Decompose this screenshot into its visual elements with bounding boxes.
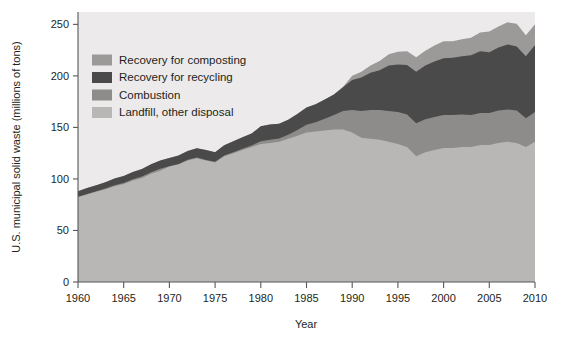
x-tick-label: 1995	[386, 292, 410, 304]
y-tick-label: 250	[51, 18, 69, 30]
x-axis-title: Year	[295, 318, 318, 330]
legend-label-combustion: Combustion	[119, 89, 180, 101]
y-tick-label: 100	[51, 173, 69, 185]
x-tick-label: 1985	[294, 292, 318, 304]
y-axis-title: U.S. municipal solid waste (millions of …	[10, 41, 22, 253]
legend-label-recovery-for-composting: Recovery for composting	[119, 54, 246, 66]
legend-swatch-landfill-other-disposal	[92, 107, 112, 118]
legend-label-landfill-other-disposal: Landfill, other disposal	[119, 106, 233, 118]
y-tick-label: 0	[63, 276, 69, 288]
stacked-area-chart: 0501001502002501960196519701975198019851…	[0, 0, 562, 344]
legend-label-recovery-for-recycling: Recovery for recycling	[119, 71, 233, 83]
x-tick-label: 1990	[340, 292, 364, 304]
legend-swatch-recovery-for-recycling	[92, 72, 112, 83]
chart-figure: 0501001502002501960196519701975198019851…	[0, 0, 562, 344]
x-tick-label: 1965	[111, 292, 135, 304]
y-tick-label: 50	[57, 224, 69, 236]
x-tick-label: 2005	[477, 292, 501, 304]
y-tick-label: 150	[51, 121, 69, 133]
x-tick-label: 1975	[203, 292, 227, 304]
y-tick-label: 200	[51, 70, 69, 82]
x-tick-label: 1980	[249, 292, 273, 304]
x-tick-label: 1960	[66, 292, 90, 304]
x-tick-label: 2000	[431, 292, 455, 304]
legend-swatch-combustion	[92, 90, 112, 101]
x-tick-label: 1970	[157, 292, 181, 304]
x-tick-label: 2010	[523, 292, 547, 304]
legend-swatch-recovery-for-composting	[92, 55, 112, 66]
